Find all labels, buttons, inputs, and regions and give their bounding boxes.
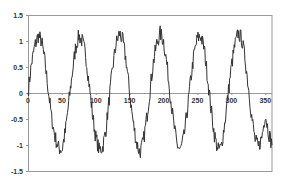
y-tick-label: -0.5 bbox=[11, 116, 23, 123]
x-tick-label: 0 bbox=[26, 97, 30, 104]
x-tick-label: 350 bbox=[259, 97, 271, 104]
x-tick-label: 50 bbox=[58, 97, 66, 104]
y-axis-ticks: 1.510.50-0.5-1-1.5 bbox=[11, 12, 28, 175]
x-tick-label: 200 bbox=[158, 97, 170, 104]
series-line bbox=[28, 26, 272, 158]
x-axis-ticks: 050100150200250300350 bbox=[26, 93, 271, 104]
x-tick-label: 250 bbox=[192, 97, 204, 104]
y-tick-label: -1.5 bbox=[11, 168, 23, 175]
y-tick-label: -1 bbox=[17, 142, 23, 149]
y-tick-label: 0.5 bbox=[13, 64, 23, 71]
y-tick-label: 0 bbox=[19, 90, 23, 97]
y-tick-label: 1.5 bbox=[13, 12, 23, 19]
y-tick-label: 1 bbox=[19, 38, 23, 45]
line-chart: 1.510.50-0.5-1-1.5 050100150200250300350 bbox=[0, 0, 283, 183]
